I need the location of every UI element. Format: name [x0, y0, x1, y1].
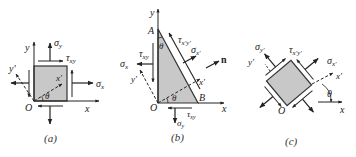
- x-axis-label-b: x: [221, 103, 227, 114]
- y-prime-axis-b: [140, 70, 158, 103]
- x-prime-label-b: x': [198, 77, 206, 87]
- figure-a: y y' σy τxy σx x' θ O x (a): [8, 37, 105, 145]
- sigma-xp-arrow-left-c: [260, 96, 273, 107]
- tau-xpyp-label-c: τx'y': [289, 44, 302, 57]
- tau-xy-left-label-b: τxy: [139, 48, 150, 61]
- sigma-yp-arrow-c: [265, 54, 276, 67]
- x-axis-label-a: x: [84, 103, 90, 114]
- figure-c: σy' τx'y' σx' y' x' θ O x (c): [235, 29, 345, 148]
- y-axis-label-b: y: [149, 7, 155, 18]
- normal-label-b: n: [221, 54, 227, 65]
- y-axis-label-a: y: [24, 42, 30, 53]
- sigma-x-label-b: σx: [120, 58, 129, 71]
- stress-element-a: [34, 66, 67, 101]
- sigma-yp-arrow-bottom-c: [302, 99, 313, 112]
- y-prime-axis-c: [265, 64, 270, 71]
- x-prime-label-a: x': [55, 73, 63, 83]
- x-prime-axis-c: [312, 73, 333, 84]
- caption-b: (b): [171, 131, 184, 144]
- sigma-xp-label-b: σx': [191, 44, 201, 57]
- tau-xy-label-a: τxy: [66, 52, 77, 65]
- tau-xy-bottom-label-b: τxy: [187, 109, 196, 120]
- x-axis-label-c: x: [339, 104, 345, 115]
- sigma-xp-arrow-b: [183, 56, 196, 63]
- sigma-y-label-b: σy: [177, 118, 184, 129]
- sigma-y-label-a: σy: [54, 37, 63, 50]
- vertex-b-label-b: B: [199, 92, 205, 103]
- figure-b: y A θ τx'y' σx' n τxy σx y' x' θ B O x τ…: [120, 7, 227, 144]
- theta-label-c: θ: [327, 88, 332, 99]
- normal-arrow-b: [206, 61, 219, 68]
- y-prime-label-b: y': [130, 74, 138, 84]
- sigma-yp-label-c: σy': [255, 41, 265, 54]
- rotated-stress-element-c: [266, 60, 311, 105]
- sigma-x-label-a: σx: [96, 78, 105, 91]
- x-prime-label-c: x': [335, 71, 343, 81]
- y-prime-label-a: y': [8, 63, 16, 74]
- theta-bottom-label-b: θ: [172, 93, 177, 103]
- sigma-xp-arrow-c: [305, 59, 318, 70]
- y-prime-label-c: y': [247, 57, 255, 67]
- theta-top-label-b: θ: [159, 41, 164, 51]
- origin-label-a: O: [25, 102, 32, 113]
- stress-transformation-diagram: y y' σy τxy σx x' θ O x (a): [0, 0, 356, 157]
- vertex-a-label-b: A: [147, 25, 155, 36]
- theta-label-a: θ: [45, 91, 50, 101]
- origin-label-b: O: [150, 102, 157, 113]
- tau-xpyp-label-b: τx'y': [178, 34, 191, 47]
- origin-label-c: O: [278, 105, 285, 116]
- caption-c: (c): [285, 135, 298, 148]
- caption-a: (a): [44, 132, 57, 145]
- y-prime-axis-a: [16, 74, 34, 101]
- sigma-xp-label-c: σx': [327, 55, 337, 68]
